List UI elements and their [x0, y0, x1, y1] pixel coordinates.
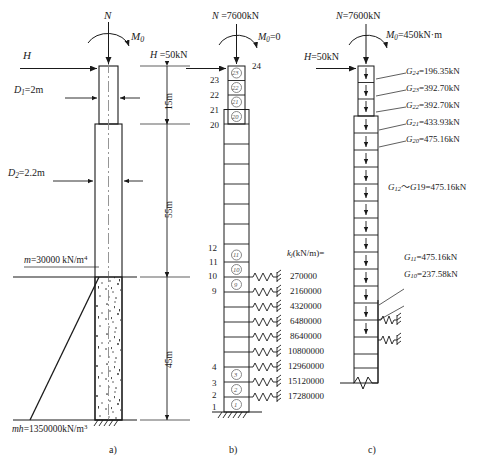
- panel-b-moment-label: M0=0: [258, 32, 281, 44]
- panel-c-moment-value: =450kN·m: [398, 29, 442, 40]
- panel-c-axial-label: N=7600kN: [336, 11, 381, 21]
- element-number-22: 22: [232, 85, 239, 92]
- spring-value-4: 6480000: [290, 317, 322, 326]
- element-number-11: 11: [233, 252, 239, 259]
- nodal-force-G24: G24=196.35kN: [406, 67, 460, 77]
- nodal-force-G20: G20=475.16kN: [406, 135, 460, 145]
- G10-value: =237.58kN: [417, 269, 458, 279]
- spring-set: [249, 270, 281, 402]
- panel-c-moment-label: M0=450kN·m: [386, 30, 442, 42]
- Grange-tilde: ～: [401, 182, 410, 192]
- panel-a-soil-modulus-top: m=30000 kN/m4: [24, 255, 87, 265]
- G20-value: =475.16kN: [419, 134, 460, 144]
- panel-a-horizontal-label: H: [23, 50, 31, 61]
- spring-value-3: 4320000: [290, 302, 322, 311]
- node-number-21: 21: [210, 106, 219, 115]
- node-number-9: 9: [212, 287, 217, 296]
- dimension-55m: 55m: [165, 201, 175, 218]
- panel-c-horizontal-label: H=50kN: [304, 52, 339, 62]
- caption-c: c): [368, 445, 376, 455]
- spring-header-unit: (kN/m)=: [293, 248, 325, 258]
- node-number-10: 10: [208, 272, 217, 281]
- nodal-force-G23: G23=392.70kN: [406, 84, 460, 94]
- node-number-24: 24: [252, 62, 261, 71]
- node-number-12: 12: [208, 244, 217, 253]
- soil-bottom-value: =1350000kN/m: [24, 424, 84, 434]
- node-number-23: 23: [210, 76, 219, 85]
- Grange-value: =475.16kN: [425, 182, 466, 192]
- soil-top-value: =30000 kN/m: [31, 255, 84, 265]
- spring-value-7: 12960000: [288, 362, 324, 371]
- diameter-1-value: =2m: [25, 84, 43, 95]
- panel-b-axial-label: NN =7600kN =7600kN: [212, 11, 259, 21]
- dimension-15m: 15m: [165, 93, 175, 110]
- node-number-20: 20: [210, 121, 219, 130]
- panel-a-soil-modulus-bottom: mh=1350000kN/m3: [12, 424, 87, 434]
- figure-canvas: N M0 H D1=2m D2=2.2m m=30000 kN/m4 mh=13…: [0, 0, 488, 475]
- caption-a: a): [109, 445, 117, 455]
- G24-value: =196.35kN: [419, 66, 460, 76]
- G22-value: =392.70kN: [419, 100, 460, 110]
- element-number-9: 9: [234, 282, 237, 289]
- G11-value: =475.16kN: [417, 252, 458, 262]
- nodal-force-G10: G10=237.58kN: [404, 270, 458, 280]
- element-number-1: 1: [234, 402, 237, 409]
- panel-a-diameter-1: D1=2m: [14, 85, 43, 97]
- spring-value-5: 8640000: [290, 332, 322, 341]
- element-number-23: 23: [232, 70, 239, 77]
- moment-symbol: M: [131, 30, 140, 42]
- nodal-force-G21: G21=433.93kN: [406, 118, 460, 128]
- node-number-1: 1: [212, 403, 217, 412]
- panel-a-axial-label: N: [104, 10, 111, 21]
- node-number-3: 3: [212, 379, 217, 388]
- spring-value-1: 270000: [290, 272, 317, 281]
- moment-subscript: 0: [140, 35, 144, 44]
- nodal-force-G22: G22=392.70kN: [406, 101, 460, 111]
- panel-b-horizontal-label: H =50kN: [150, 50, 188, 60]
- spring-value-2: 2160000: [290, 287, 322, 296]
- soil-bottom-exponent: 3: [84, 423, 87, 430]
- panel-a-diameter-2: D2=2.2m: [8, 168, 45, 180]
- spring-value-6: 10800000: [288, 347, 324, 356]
- diameter-2-value: =2.2m: [19, 167, 45, 178]
- node-number-11: 11: [209, 258, 218, 267]
- panel-b-moment-value: =0: [270, 31, 281, 42]
- soil-top-symbol: m: [24, 255, 31, 265]
- element-number-10: 10: [233, 267, 240, 274]
- dimension-45m: 45m: [165, 351, 175, 368]
- element-number-20: 20: [232, 114, 239, 121]
- G21-value: =433.93kN: [419, 117, 460, 127]
- node-number-22: 22: [210, 91, 219, 100]
- node-number-2: 2: [212, 391, 217, 400]
- element-number-3: 3: [234, 372, 237, 379]
- soil-bottom-symbol: mh: [12, 424, 24, 434]
- panel-c-geometry: [316, 24, 406, 389]
- G23-value: =392.70kN: [419, 83, 460, 93]
- spring-value-9: 17280000: [288, 392, 324, 401]
- soil-top-exponent: 4: [84, 254, 87, 261]
- spring-value-8: 15120000: [288, 377, 324, 386]
- element-number-21: 21: [232, 99, 239, 106]
- spring-stiffness-header: kj(kN/m)=: [287, 249, 324, 259]
- nodal-force-range-G12-G19: G12～G19=475.16kN: [388, 183, 466, 193]
- caption-b: b): [229, 445, 237, 455]
- node-number-4: 4: [212, 363, 217, 372]
- panel-a-moment-label: M0: [131, 31, 144, 44]
- element-number-2: 2: [234, 387, 237, 394]
- nodal-force-G11: G11=475.16kN: [404, 253, 457, 263]
